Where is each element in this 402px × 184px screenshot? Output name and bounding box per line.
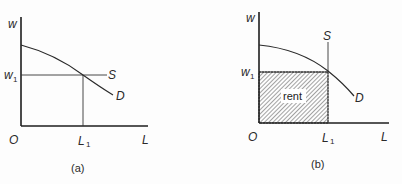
panel-b: rent w S w 1 D O L 1 L (b) xyxy=(241,11,389,170)
demand-label: D xyxy=(116,89,125,103)
y-axis-label: w xyxy=(8,17,18,31)
l1-subscript: 1 xyxy=(330,137,335,146)
panel-caption: (a) xyxy=(71,162,84,174)
x-axis-label: L xyxy=(142,133,149,147)
supply-label: S xyxy=(323,29,331,43)
rent-label: rent xyxy=(283,90,302,102)
y-axis-label: w xyxy=(246,11,256,25)
economic-rent-diagram: w w 1 S D O L 1 L (a) rent w S w 1 D O L… xyxy=(0,0,402,184)
origin-label: O xyxy=(9,133,18,147)
panel-a: w w 1 S D O L 1 L (a) xyxy=(4,17,149,174)
supply-label: S xyxy=(108,68,116,82)
demand-label: D xyxy=(355,91,364,105)
l1-subscript: 1 xyxy=(86,140,91,149)
w1-subscript: 1 xyxy=(250,72,255,81)
origin-label: O xyxy=(248,130,257,144)
l1-label: L xyxy=(322,131,329,145)
w1-subscript: 1 xyxy=(13,75,18,84)
panel-caption: (b) xyxy=(311,158,324,170)
x-axis-label: L xyxy=(381,130,388,144)
demand-curve xyxy=(21,45,113,95)
l1-label: L xyxy=(78,134,85,148)
